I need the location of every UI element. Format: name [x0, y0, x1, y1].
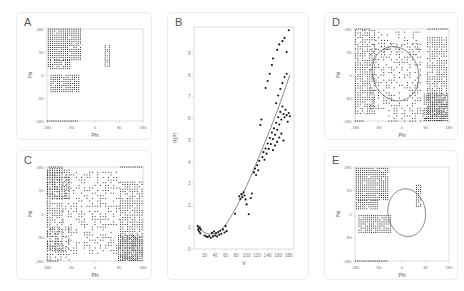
svg-text:-90: -90 — [375, 125, 382, 130]
svg-text:6: 6 — [188, 116, 191, 121]
svg-text:2: 2 — [188, 203, 191, 208]
panel-e-plot: -180-90090180-180-90090180PhiPsi — [325, 151, 457, 279]
svg-text:-180: -180 — [343, 119, 352, 124]
scatter-points — [47, 167, 142, 262]
svg-text:Phi: Phi — [398, 132, 405, 138]
panel-e: E -180-90090180-180-90090180PhiPsi — [324, 150, 458, 280]
svg-text:180: 180 — [446, 265, 454, 270]
svg-text:90: 90 — [423, 265, 428, 270]
figure-container: A -180-90090180-180-90090180PhiPsi B 204… — [0, 0, 464, 291]
svg-text:80: 80 — [234, 253, 240, 258]
svg-text:Psi: Psi — [335, 211, 341, 218]
svg-text:9: 9 — [188, 51, 191, 56]
svg-text:8: 8 — [188, 73, 191, 78]
svg-text:180: 180 — [446, 125, 454, 130]
svg-text:160: 160 — [274, 253, 282, 258]
svg-text:90: 90 — [347, 188, 352, 193]
svg-text:60: 60 — [223, 253, 229, 258]
svg-text:-180: -180 — [351, 125, 360, 130]
svg-text:90: 90 — [117, 265, 122, 270]
svg-text:0: 0 — [94, 265, 97, 270]
svg-text:0: 0 — [401, 265, 404, 270]
panel-d-letter: D — [332, 16, 340, 28]
svg-text:Phi: Phi — [398, 272, 405, 278]
svg-text:-90: -90 — [37, 235, 44, 240]
panel-c-plot: -180-90090180-180-90090180PhiPsi — [17, 151, 151, 279]
panel-b: B 204060801001201401601800123456789VH(P) — [167, 12, 309, 280]
svg-text:-180: -180 — [43, 265, 52, 270]
svg-text:0: 0 — [94, 125, 97, 130]
svg-text:-180: -180 — [43, 125, 52, 130]
panel-d-plot: -180-90090180-180-90090180PhiPsi — [325, 13, 457, 139]
svg-text:Psi: Psi — [27, 72, 33, 79]
svg-text:Phi: Phi — [91, 132, 98, 138]
panel-c: C -180-90090180-180-90090180PhiPsi — [16, 150, 152, 280]
panel-b-letter: B — [175, 16, 182, 28]
svg-text:-90: -90 — [345, 96, 352, 101]
svg-text:180: 180 — [140, 265, 148, 270]
fit-curve — [198, 75, 290, 234]
svg-text:0: 0 — [349, 212, 352, 217]
panel-c-letter: C — [24, 154, 32, 166]
svg-text:0: 0 — [349, 73, 352, 78]
svg-text:4: 4 — [188, 160, 191, 165]
svg-text:180: 180 — [37, 165, 45, 170]
svg-text:-180: -180 — [351, 265, 360, 270]
svg-text:7: 7 — [188, 94, 191, 99]
svg-text:140: 140 — [264, 253, 272, 258]
svg-text:-180: -180 — [35, 259, 44, 264]
scatter-points — [197, 29, 291, 239]
svg-text:-90: -90 — [375, 265, 382, 270]
panel-d: D -180-90090180-180-90090180PhiPsi — [324, 12, 458, 140]
svg-text:100: 100 — [243, 253, 251, 258]
svg-text:-90: -90 — [37, 96, 44, 101]
panel-b-plot: 204060801001201401601800123456789VH(P) — [168, 13, 308, 279]
svg-text:180: 180 — [37, 27, 45, 32]
svg-text:-90: -90 — [68, 265, 75, 270]
svg-text:90: 90 — [117, 125, 122, 130]
svg-text:180: 180 — [345, 165, 353, 170]
svg-text:180: 180 — [285, 253, 293, 258]
svg-text:-180: -180 — [343, 259, 352, 264]
svg-text:V: V — [242, 260, 246, 266]
panel-e-letter: E — [332, 154, 339, 166]
panel-a: A -180-90090180-180-90090180PhiPsi — [16, 12, 152, 140]
svg-text:90: 90 — [347, 50, 352, 55]
svg-text:120: 120 — [253, 253, 261, 258]
svg-text:90: 90 — [39, 50, 44, 55]
svg-text:5: 5 — [188, 138, 191, 143]
svg-text:40: 40 — [212, 253, 218, 258]
svg-text:0: 0 — [188, 247, 191, 252]
svg-text:180: 180 — [345, 27, 353, 32]
svg-text:0: 0 — [41, 212, 44, 217]
svg-text:20: 20 — [202, 253, 208, 258]
svg-text:H(P): H(P) — [172, 133, 178, 144]
svg-text:1: 1 — [188, 225, 191, 230]
svg-text:-90: -90 — [68, 125, 75, 130]
scatter-points — [47, 29, 110, 122]
svg-text:Psi: Psi — [27, 211, 33, 218]
svg-text:180: 180 — [140, 125, 148, 130]
svg-text:90: 90 — [39, 188, 44, 193]
panel-a-plot: -180-90090180-180-90090180PhiPsi — [17, 13, 151, 139]
svg-text:0: 0 — [41, 73, 44, 78]
svg-text:3: 3 — [188, 181, 191, 186]
svg-text:0: 0 — [401, 125, 404, 130]
panel-a-letter: A — [24, 16, 31, 28]
svg-text:Phi: Phi — [91, 272, 98, 278]
svg-text:-90: -90 — [345, 235, 352, 240]
scatter-points — [355, 29, 448, 122]
contour-ellipse — [385, 186, 429, 239]
svg-text:-180: -180 — [35, 119, 44, 124]
svg-text:Psi: Psi — [335, 72, 341, 79]
svg-text:90: 90 — [423, 125, 428, 130]
